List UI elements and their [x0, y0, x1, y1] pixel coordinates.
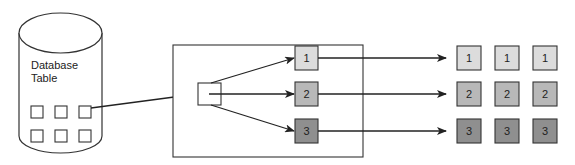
table-cell — [31, 106, 43, 118]
output-row-2: 2 2 2 — [457, 82, 557, 106]
database-cylinder: Database Table — [19, 13, 102, 153]
svg-text:1: 1 — [504, 52, 510, 64]
table-cell — [55, 130, 67, 142]
svg-text:3: 3 — [303, 125, 309, 137]
table-cell — [55, 106, 67, 118]
table-cell — [79, 106, 91, 118]
svg-text:3: 3 — [542, 125, 548, 137]
database-label-line1: Database — [31, 59, 78, 71]
svg-text:1: 1 — [542, 52, 548, 64]
svg-text:2: 2 — [466, 88, 472, 100]
database-label-line2: Table — [31, 72, 57, 84]
svg-text:2: 2 — [504, 88, 510, 100]
partition-3: 3 — [295, 119, 318, 143]
svg-text:3: 3 — [466, 125, 472, 137]
output-row-1: 1 1 1 — [457, 46, 557, 70]
output-row-3: 3 3 3 — [457, 119, 557, 143]
svg-text:2: 2 — [542, 88, 548, 100]
svg-text:3: 3 — [504, 125, 510, 137]
svg-text:1: 1 — [466, 52, 472, 64]
partition-2: 2 — [295, 82, 318, 106]
svg-text:1: 1 — [303, 52, 309, 64]
partition-1: 1 — [295, 46, 318, 70]
svg-text:2: 2 — [303, 88, 309, 100]
diagram-canvas: Database Table 1 2 3 1 — [0, 0, 575, 165]
table-cell — [31, 130, 43, 142]
table-cell — [79, 130, 91, 142]
